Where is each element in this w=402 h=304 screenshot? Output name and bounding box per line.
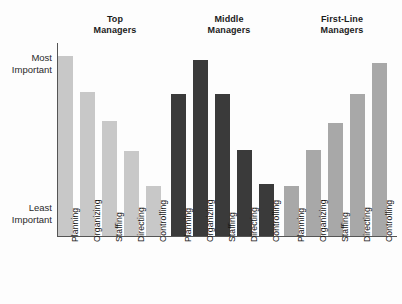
- y-axis-label-most-important: Most Important: [0, 52, 52, 75]
- x-axis-tick-label: Directing: [136, 207, 146, 242]
- x-axis-tick-label: Staffing: [340, 212, 350, 242]
- x-axis-tick-label: Controlling: [384, 200, 394, 242]
- x-axis-tick-label: Planning: [296, 208, 306, 242]
- x-axis-tick-label: Organizing: [205, 199, 215, 242]
- group-title-first-line-managers: First-Line Managers: [283, 14, 401, 36]
- x-axis-tick-label: Controlling: [158, 200, 168, 242]
- x-axis-tick-label: Staffing: [227, 212, 237, 242]
- group-title-middle-managers: Middle Managers: [170, 14, 288, 36]
- x-axis-tick-label: Directing: [249, 207, 259, 242]
- x-axis-tick-label: Planning: [70, 208, 80, 242]
- x-axis-tick-label: Staffing: [114, 212, 124, 242]
- x-axis-tick-label: Organizing: [318, 199, 328, 242]
- x-axis-tick-label: Directing: [362, 207, 372, 242]
- group-title-top-managers: Top Managers: [56, 14, 174, 36]
- y-axis-label-least-important: Least Important: [0, 202, 52, 225]
- bar-chart: Top Managers Middle Managers First-Line …: [0, 0, 402, 304]
- plot-area: [58, 56, 397, 236]
- x-axis-tick-label: Planning: [183, 208, 193, 242]
- x-axis-tick-label: Controlling: [271, 200, 281, 242]
- x-axis-tick-label: Organizing: [92, 199, 102, 242]
